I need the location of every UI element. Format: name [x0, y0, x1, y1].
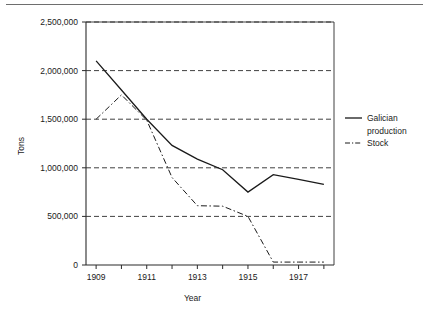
- y-tick-label: 1,500,000: [40, 114, 78, 124]
- y-tick-label: 1,000,000: [40, 163, 78, 173]
- legend-label-cont: production: [367, 126, 407, 136]
- y-tick-label: 0: [73, 260, 78, 270]
- legend-group: GalicianproductionStock: [345, 113, 407, 148]
- gridlines-group: [86, 22, 334, 216]
- x-tick-label: 1913: [188, 272, 207, 282]
- x-tick-label: 1909: [87, 272, 106, 282]
- series-group: [96, 61, 324, 262]
- x-tick-label: 1915: [238, 272, 257, 282]
- axes-group: [86, 22, 334, 265]
- x-tick-label: 1917: [289, 272, 308, 282]
- x-tick-label: 1911: [138, 272, 157, 282]
- y-tick-label: 500,000: [47, 211, 78, 221]
- series-line-galician-production: [96, 61, 324, 192]
- y-tick-label: 2,500,000: [40, 17, 78, 27]
- y-tick-group: 0500,0001,000,0001,500,0002,000,0002,500…: [40, 17, 86, 270]
- legend-label[interactable]: Stock: [367, 138, 389, 148]
- figure-container: Tons Year 0500,0001,000,0001,500,0002,00…: [0, 0, 429, 318]
- series-line-stock: [96, 95, 324, 262]
- line-chart: 0500,0001,000,0001,500,0002,000,0002,500…: [0, 0, 429, 318]
- legend-label[interactable]: Galician: [367, 113, 398, 123]
- x-tick-group: 19091911191319151917: [87, 265, 324, 282]
- y-tick-label: 2,000,000: [40, 66, 78, 76]
